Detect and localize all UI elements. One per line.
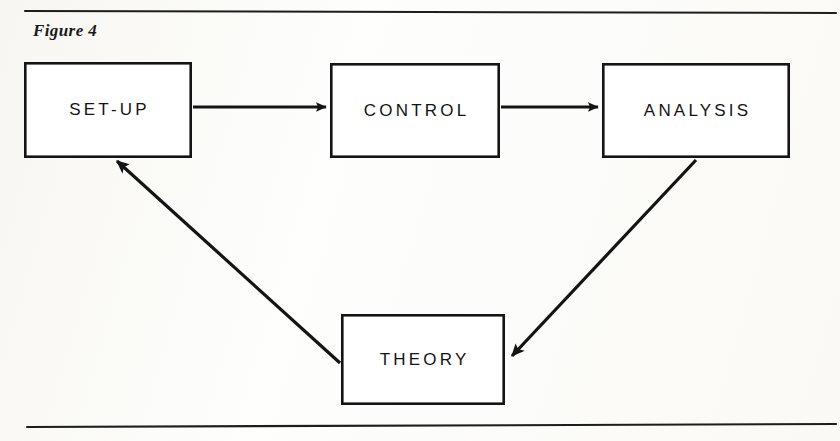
node-label-setup: SET-UP — [69, 100, 150, 120]
figure-container: Figure 4 SET-UPCONTROLANALYSISTHEORY — [0, 0, 840, 441]
node-label-control: CONTROL — [364, 101, 470, 121]
rule-bottom — [27, 424, 836, 427]
node-label-theory: THEORY — [380, 350, 470, 370]
rule-top — [25, 11, 836, 13]
edge-analysis-to-theory — [512, 160, 696, 356]
diagram-canvas — [0, 0, 840, 441]
figure-caption: Figure 4 — [33, 21, 97, 41]
edge-theory-to-setup — [117, 161, 340, 363]
node-label-analysis: ANALYSIS — [644, 101, 752, 121]
